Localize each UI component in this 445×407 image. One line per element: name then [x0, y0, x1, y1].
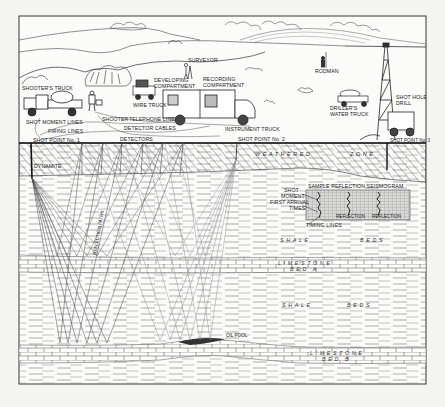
- label-first-arrival-2: TIMES: [289, 205, 306, 211]
- label-shot-moment-2: MOMENT: [281, 193, 305, 199]
- label-drillers-2: WATER TRUCK: [330, 111, 369, 117]
- label-dynamite: DYNAMITE: [34, 163, 62, 169]
- label-shot-point-1: SHOT POINT No. 1: [33, 137, 80, 143]
- label-seismogram-title: SAMPLE REFLECTION SEISMOGRAM: [308, 183, 403, 189]
- label-reflection-2: REFLECTION: [372, 214, 401, 219]
- label-instrument-truck: INSTRUMENT TRUCK: [225, 126, 280, 132]
- label-telephone-line: TELEPHONE LINE: [129, 116, 175, 122]
- label-shale-beds-2b: BEDS: [347, 302, 372, 308]
- label-reflection-1: REFLECTION: [336, 214, 365, 219]
- label-recording-2: COMPARTMENT: [203, 82, 245, 88]
- label-timing-lines: TIMING LINES: [306, 222, 342, 228]
- label-surveyor: SURVEYOR: [188, 57, 218, 63]
- label-shooters-truck: SHOOTER'S TRUCK: [22, 85, 73, 91]
- label-weathered: WEATHERED: [255, 151, 312, 157]
- label-zone: ZONE: [349, 151, 375, 157]
- dynamite-hole: [31, 143, 32, 178]
- label-rodman: RODMAN: [315, 68, 339, 74]
- label-shot-point-2: SHOT POINT No. 2: [238, 136, 285, 142]
- label-shot-point-3: SHOT POINT No. 3: [390, 138, 431, 143]
- label-detectors: DETECTORS: [120, 136, 153, 142]
- label-oil-pool: OIL POOL: [226, 333, 248, 338]
- label-shot-hole-2: DRILL: [396, 100, 411, 106]
- limestone-bed-a: [19, 255, 426, 273]
- label-shale-beds-2a: SHALE: [282, 302, 313, 308]
- label-detector-cables: DETECTOR CABLES: [124, 125, 176, 131]
- label-wire-truck: WIRE TRUCK: [133, 102, 167, 108]
- label-developing-2: COMPARTMENT: [154, 83, 196, 89]
- label-shale-beds-1a: SHALE: [280, 237, 311, 243]
- label-shooter: SHOOTER: [102, 116, 129, 122]
- label-shot-moment-lines: SHOT MOMENT LINES: [26, 119, 83, 125]
- label-limestone-b-2: BED B: [322, 356, 351, 362]
- label-limestone-a-2: BED A: [290, 266, 319, 272]
- seismic-survey-diagram: SHOOTER'S TRUCK SHOT MOMENT LINES FIRING…: [0, 0, 445, 407]
- label-firing-lines: FIRING LINES: [48, 128, 84, 134]
- label-shale-beds-1b: BEDS: [360, 237, 385, 243]
